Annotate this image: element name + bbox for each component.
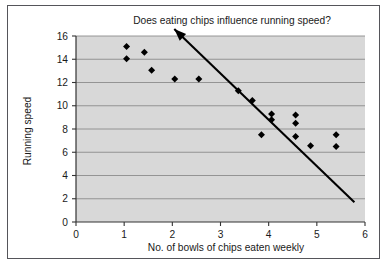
y-tick-label: 2: [62, 193, 68, 204]
y-tick-label: 12: [57, 77, 69, 88]
y-tick-label: 16: [57, 31, 69, 42]
x-axis-tick-labels: 0123456: [73, 229, 368, 240]
x-tick-label: 1: [121, 229, 127, 240]
y-tick-label: 6: [62, 147, 68, 158]
x-tick-label: 5: [314, 229, 320, 240]
y-axis-title: Running speed: [22, 96, 33, 165]
y-tick-label: 0: [62, 217, 68, 228]
chart-canvas: 0246810121416 0123456 Does eating chips …: [0, 0, 387, 266]
y-tick-label: 10: [57, 100, 69, 111]
x-axis-title: No. of bowls of chips eaten weekly: [148, 242, 305, 253]
x-tick-label: 6: [362, 229, 368, 240]
y-tick-label: 8: [62, 124, 68, 135]
x-tick-label: 4: [266, 229, 272, 240]
x-tick-label: 3: [218, 229, 224, 240]
x-tick-label: 0: [73, 229, 79, 240]
x-tick-label: 2: [169, 229, 175, 240]
chart-title: Does eating chips influence running spee…: [133, 15, 331, 26]
y-axis-tick-labels: 0246810121416: [57, 31, 69, 228]
scatter-chart-figure: 0246810121416 0123456 Does eating chips …: [0, 0, 387, 266]
y-tick-label: 14: [57, 54, 69, 65]
y-tick-label: 4: [62, 170, 68, 181]
